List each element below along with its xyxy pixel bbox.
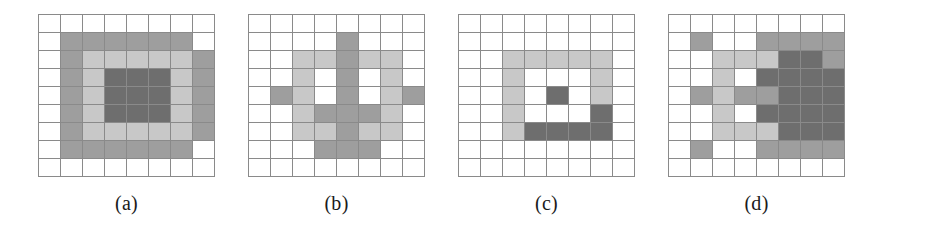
grid-cell [779,159,801,177]
grid-cell [547,141,569,159]
grid-cell [691,87,713,105]
grid-cell [669,15,691,33]
grid-cell [779,69,801,87]
grid-cell [293,159,315,177]
grid-cell [459,87,481,105]
grid-cell [315,87,337,105]
grid-cell [171,33,193,51]
grid-cell [779,105,801,123]
grid-cell [503,15,525,33]
grid-cell [403,141,425,159]
grid-cell [337,123,359,141]
grid-cell [105,105,127,123]
grid-cell [735,159,757,177]
grid-cell [61,123,83,141]
grid-cell [779,141,801,159]
grid-cell [83,87,105,105]
grid-cell [757,87,779,105]
grid-cell [271,69,293,87]
grid-cell [337,141,359,159]
grid-cell [613,105,635,123]
grid-cell [547,69,569,87]
grid-cell [757,105,779,123]
grid-cell [293,87,315,105]
grid-cell [591,69,613,87]
grid-cell [525,33,547,51]
grid-cell [823,159,845,177]
grid-cell [105,15,127,33]
grid-cell [669,51,691,69]
figure-container: (a) (b) (c) (d) [0,0,952,231]
grid-cell [39,123,61,141]
grid-cell [613,33,635,51]
grid-cell [459,159,481,177]
grid-cell [525,15,547,33]
grid-cell [315,141,337,159]
grid-cell [171,159,193,177]
grid-cell [569,105,591,123]
grid-cell [381,69,403,87]
grid-cell [61,141,83,159]
grid-cell [39,159,61,177]
grid-cell [547,15,569,33]
grid-cell [293,69,315,87]
grid-cell [293,33,315,51]
grid-cell [315,105,337,123]
grid-cell [801,51,823,69]
panel-b-grid [248,14,425,177]
grid-cell [61,105,83,123]
grid-cell [779,15,801,33]
grid-cell [83,105,105,123]
grid-cell [337,33,359,51]
grid-cell [669,33,691,51]
grid-cell [127,87,149,105]
grid-cell [735,105,757,123]
grid-cell [381,87,403,105]
grid-cell [613,69,635,87]
grid-cell [569,15,591,33]
panel-d: (d) [668,14,845,213]
grid-cell [105,159,127,177]
grid-cell [547,33,569,51]
grid-cell [271,15,293,33]
grid-cell [381,15,403,33]
grid-cell [691,159,713,177]
grid-cell [171,123,193,141]
grid-cell [735,123,757,141]
grid-cell [823,51,845,69]
grid-cell [149,141,171,159]
grid-cell [735,33,757,51]
grid-cell [503,87,525,105]
grid-cell [691,15,713,33]
grid-cell [403,159,425,177]
grid-cell [271,159,293,177]
grid-cell [613,123,635,141]
grid-cell [713,15,735,33]
grid-cell [39,15,61,33]
grid-cell [713,69,735,87]
grid-cell [39,141,61,159]
grid-cell [503,159,525,177]
grid-cell [713,141,735,159]
grid-cell [39,87,61,105]
grid-cell [315,159,337,177]
grid-cell [127,51,149,69]
grid-cell [39,69,61,87]
grid-cell [149,123,171,141]
grid-cell [547,51,569,69]
grid-cell [713,159,735,177]
grid-cell [403,15,425,33]
grid-cell [83,123,105,141]
grid-cell [337,87,359,105]
grid-cell [193,51,215,69]
grid-cell [403,51,425,69]
grid-cell [171,69,193,87]
grid-cell [293,141,315,159]
grid-cell [381,51,403,69]
grid-cell [691,51,713,69]
grid-cell [757,69,779,87]
grid-cell [293,105,315,123]
grid-cell [779,51,801,69]
grid-cell [569,69,591,87]
grid-cell [569,87,591,105]
